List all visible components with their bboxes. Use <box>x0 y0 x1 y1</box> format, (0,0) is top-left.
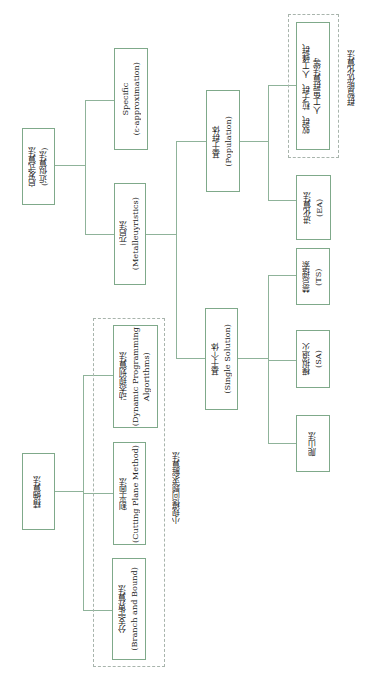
swarm-group-label: 群智能优化算法 <box>346 50 358 106</box>
connector <box>85 234 114 235</box>
connector <box>268 275 296 276</box>
node-label: (Metalleuyristics) <box>130 197 141 270</box>
connector <box>85 100 114 101</box>
connector <box>85 100 86 234</box>
node-label: 蚁群、粒子群、人工蜂群、 <box>302 38 313 134</box>
node-label: (Dynamic Programming <box>130 327 141 426</box>
node-label: 分支定界算法 <box>118 567 129 651</box>
node-label: 模拟退火 <box>302 343 313 375</box>
node-label: (Population) <box>223 116 234 167</box>
connector <box>268 275 269 443</box>
connector <box>268 85 269 200</box>
connector <box>146 234 176 235</box>
node-label: 禁忌搜索 <box>302 261 313 293</box>
node-branch-and-bound: 分支定界算法(Branch and Bound) <box>112 558 146 660</box>
connector <box>238 358 268 359</box>
node-label: 割平面法 <box>119 445 130 543</box>
node-hillclimb: 爬山法 <box>296 415 330 472</box>
node-swarm: 蚁群、粒子群、人工蜂群、人工鱼群算法等 <box>296 22 330 150</box>
node-label: 基于个体 <box>211 324 222 394</box>
node-label: (Cutting Plane Method) <box>130 445 141 543</box>
node-specific: Specific(ε-approximation) <box>114 48 148 150</box>
node-label: (ε-approximation) <box>131 62 142 136</box>
connector <box>268 360 296 361</box>
node-heuristic: 启发式算法(近似算法) <box>22 128 55 205</box>
node-label: (EA) <box>314 192 325 224</box>
node-exact: 精确算法 <box>22 453 55 530</box>
node-label: (近似算法) <box>39 147 50 187</box>
node-dynamic-programming: 动态规划算法(Dynamic ProgrammingAlgorithms) <box>113 325 158 428</box>
connector <box>268 200 296 201</box>
node-label: (Branch and Bound) <box>129 567 140 651</box>
connector <box>176 141 206 142</box>
node-population: 基于群体(Population) <box>206 90 240 192</box>
node-label: 人工鱼群算法等 <box>313 38 324 134</box>
node-label: 爬山法 <box>308 432 319 456</box>
node-label: Algorithms) <box>141 327 152 426</box>
node-evolutionary: 进化算法(EA) <box>296 175 331 240</box>
node-label: (Single Solution) <box>222 324 233 394</box>
node-label: 基于群体 <box>212 116 223 167</box>
connector <box>55 165 85 166</box>
node-single-solution: 基于个体(Single Solution) <box>205 308 238 410</box>
connector <box>176 141 177 358</box>
node-annealing: 模拟退火(SA) <box>296 330 330 388</box>
connector <box>240 141 268 142</box>
node-label: 元启法 <box>119 197 130 270</box>
node-label: (TS) <box>313 261 324 293</box>
node-metaheuristic: 元启法(Metalleuyristics) <box>114 183 146 285</box>
node-label: 动态规划算法 <box>119 327 130 426</box>
small-scale-group-label: 小规模问题求解算法 <box>171 452 183 524</box>
node-label: 进化算法 <box>303 192 314 224</box>
connector <box>55 491 83 492</box>
node-cutting-plane: 割平面法(Cutting Plane Method) <box>113 442 146 545</box>
node-label: (SA) <box>313 343 324 375</box>
node-label: 启发式算法 <box>28 147 39 187</box>
node-tabu: 禁忌搜索(TS) <box>296 248 330 305</box>
connector <box>268 443 296 444</box>
node-label: 精确算法 <box>33 476 44 508</box>
connector <box>176 358 205 359</box>
node-label: Specific <box>120 62 131 136</box>
